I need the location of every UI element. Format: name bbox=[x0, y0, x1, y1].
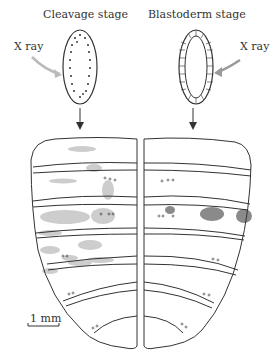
abdomen-right-half bbox=[144, 138, 251, 349]
down-arrow-left bbox=[76, 108, 84, 130]
down-arrow-right bbox=[189, 108, 197, 130]
diagram-canvas bbox=[0, 0, 278, 364]
scale-bar bbox=[28, 323, 59, 326]
blastoderm-egg bbox=[179, 30, 213, 104]
cleavage-egg bbox=[63, 30, 97, 104]
bristle-marks bbox=[62, 177, 219, 329]
